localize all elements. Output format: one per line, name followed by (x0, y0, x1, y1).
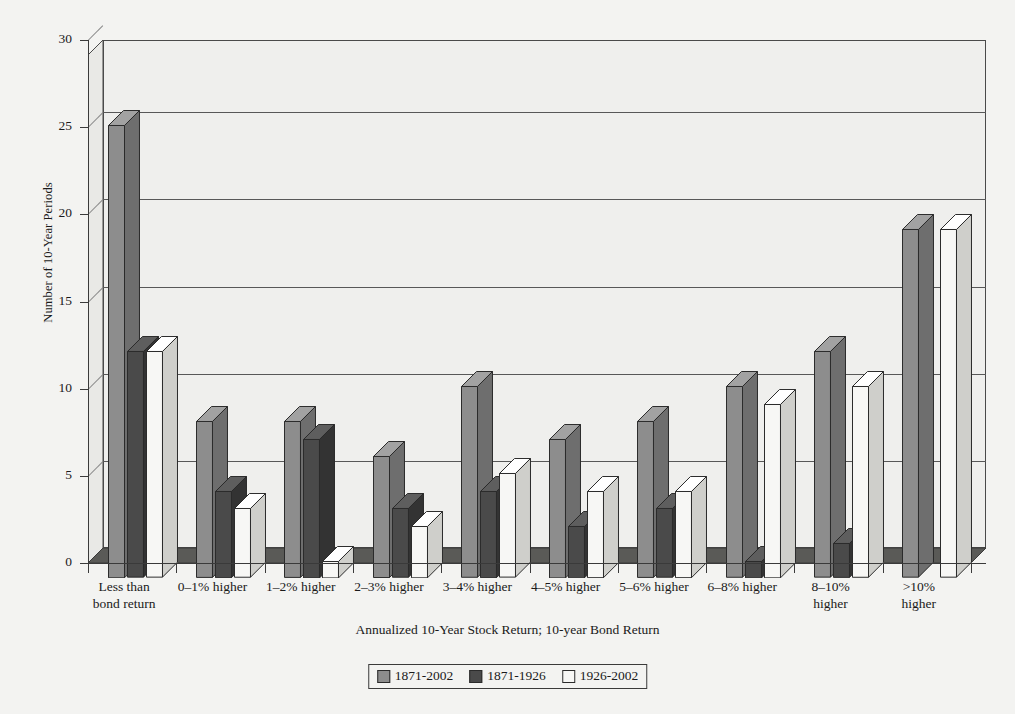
y-axis-tick-label: 20 (30, 205, 72, 221)
y-axis-tick-label: 25 (30, 118, 72, 134)
x-axis-category-line: higher (875, 595, 963, 612)
x-axis-category-label-2: 1–2% higher (257, 578, 345, 595)
bar-2-9[interactable] (940, 214, 972, 578)
bar-2-2[interactable] (322, 546, 354, 578)
y-axis-tick (80, 476, 89, 477)
x-axis-category-label-3: 2–3% higher (345, 578, 433, 595)
x-axis-tick (441, 564, 442, 573)
y-axis-tick (80, 214, 89, 215)
y-axis-tick (80, 302, 89, 303)
bar-2-0[interactable] (146, 336, 178, 578)
x-axis-category-line: >10% (875, 578, 963, 595)
gridline-connector (88, 287, 104, 303)
x-axis-category-line: bond return (80, 595, 168, 612)
x-axis-category-line: 4–5% higher (522, 578, 610, 595)
x-axis-category-label-4: 3–4% higher (433, 578, 521, 595)
x-axis-category-line: 0–1% higher (168, 578, 256, 595)
y-axis-tick-label: 15 (30, 293, 72, 309)
gridline (103, 112, 986, 113)
x-axis-line (88, 563, 986, 564)
chart-legend: 1871-2002 1871-1926 1926-2002 (368, 664, 648, 689)
gridline-connector (88, 25, 104, 41)
x-axis-tick (971, 564, 972, 573)
y-axis-tick-label: 30 (30, 31, 72, 47)
gridline (103, 287, 986, 288)
legend-item-0[interactable]: 1871-2002 (377, 668, 454, 684)
legend-swatch-icon-2 (562, 670, 575, 683)
x-axis-tick (265, 564, 266, 573)
x-axis-title: Annualized 10-Year Stock Return; 10-year… (0, 622, 1015, 638)
plot-area (88, 40, 986, 563)
x-axis-tick (706, 564, 707, 573)
x-axis-category-line: higher (786, 595, 874, 612)
y-axis-tick-label: 10 (30, 380, 72, 396)
bar-shape (411, 511, 443, 578)
x-axis-category-label-9: >10%higher (875, 578, 963, 612)
y-axis-tick (80, 40, 89, 41)
bar-0-9[interactable] (902, 214, 934, 578)
legend-item-2[interactable]: 1926-2002 (562, 668, 639, 684)
bar-shape (940, 214, 972, 578)
gridline-connector (88, 374, 104, 390)
x-axis-category-line: Less than (80, 578, 168, 595)
legend-item-1[interactable]: 1871-1926 (469, 668, 546, 684)
x-axis-category-label-8: 8–10%higher (786, 578, 874, 612)
legend-swatch-icon-1 (469, 670, 482, 683)
x-axis-category-line: 3–4% higher (433, 578, 521, 595)
x-axis-category-line: 1–2% higher (257, 578, 345, 595)
x-axis-category-line: 2–3% higher (345, 578, 433, 595)
x-axis-category-line: 6–8% higher (698, 578, 786, 595)
legend-label-0: 1871-2002 (395, 668, 454, 684)
bar-2-3[interactable] (411, 511, 443, 578)
y-axis-tick (80, 389, 89, 390)
y-axis-title: Number of 10-Year Periods (41, 133, 56, 373)
legend-label-2: 1926-2002 (580, 668, 639, 684)
x-axis-tick (883, 564, 884, 573)
y-axis-tick-label: 5 (30, 467, 72, 483)
gridline-connector (88, 461, 104, 477)
legend-label-1: 1871-1926 (487, 668, 546, 684)
gridline-connector (88, 199, 104, 215)
bar-shape (146, 336, 178, 578)
x-axis-tick (794, 564, 795, 573)
bar-shape (322, 546, 354, 578)
x-axis-category-label-0: Less thanbond return (80, 578, 168, 612)
bar-shape (234, 493, 266, 578)
bar-2-4[interactable] (499, 458, 531, 578)
gridline-connector (88, 112, 104, 128)
bar-shape (764, 389, 796, 578)
x-axis-category-line: 5–6% higher (610, 578, 698, 595)
gridline (103, 199, 986, 200)
x-axis-tick (618, 564, 619, 573)
legend-swatch-icon-0 (377, 670, 390, 683)
bar-2-7[interactable] (764, 389, 796, 578)
bar-shape (852, 371, 884, 578)
x-axis-category-line: 8–10% (786, 578, 874, 595)
chart-canvas: Number of 10-Year Periods 051015202530 L… (0, 0, 1015, 714)
x-axis-tick (176, 564, 177, 573)
bar-shape (902, 214, 934, 578)
x-axis-tick (353, 564, 354, 573)
bar-shape (499, 458, 531, 578)
y-axis-tick-label: 0 (30, 554, 72, 570)
x-axis-category-label-5: 4–5% higher (522, 578, 610, 595)
x-axis-tick (530, 564, 531, 573)
x-axis-category-label-6: 5–6% higher (610, 578, 698, 595)
x-axis-tick (88, 564, 89, 573)
x-axis-category-label-1: 0–1% higher (168, 578, 256, 595)
y-axis-tick (80, 127, 89, 128)
bar-2-8[interactable] (852, 371, 884, 578)
bar-2-1[interactable] (234, 493, 266, 578)
x-axis-category-label-7: 6–8% higher (698, 578, 786, 595)
